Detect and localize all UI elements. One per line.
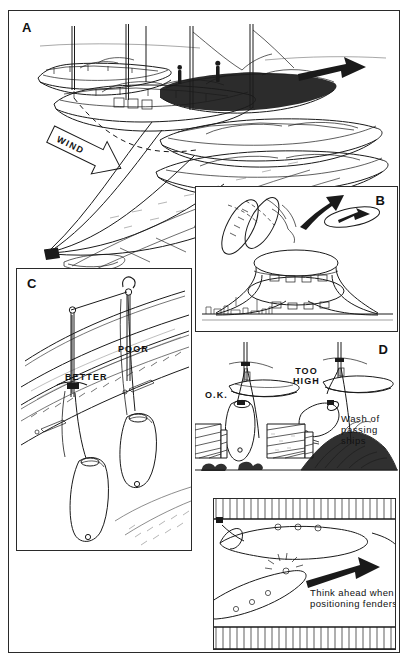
panel-b: B [195, 186, 398, 332]
swing-arrow [300, 195, 344, 230]
panel-d-letter: D [379, 342, 388, 357]
think-ahead-arrow [306, 557, 380, 588]
approach-arrow [298, 57, 366, 81]
panel-d-lower-artwork [214, 499, 396, 650]
label-wash-of-passing-ships: Wash of passing ships [341, 414, 380, 447]
panel-b-artwork [196, 187, 398, 332]
wind-label-a-text: WIND [55, 134, 86, 156]
illustration-page: A [0, 0, 409, 662]
label-ok: O.K. [205, 390, 228, 400]
label-poor: POOR [118, 344, 149, 354]
panel-d: D [195, 338, 398, 651]
panel-b-letter: B [376, 193, 385, 208]
label-think-ahead: Think ahead when positioning fenders [310, 588, 396, 610]
panel-c-artwork [17, 269, 192, 551]
panel-c: C [16, 268, 192, 551]
panel-a-letter: A [22, 20, 31, 35]
panel-c-letter: C [27, 276, 36, 291]
label-better: BETTER [65, 372, 108, 382]
label-too-high: TOO HIGH [293, 366, 320, 387]
panel-d-lower-frame: Think ahead when positioning fenders [213, 498, 396, 650]
